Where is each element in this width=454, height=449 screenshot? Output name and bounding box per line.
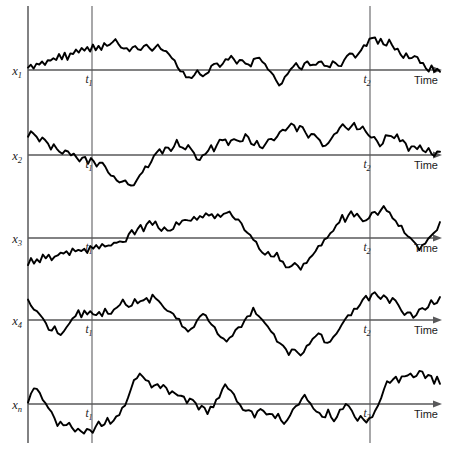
row-label-xn: xn [11,398,22,414]
row-label-x1: x1 [11,64,22,80]
ensemble-random-process-figure: x1t1t2Timex2t1t2Timex3t1t2Timex4t1t2Time… [0,0,454,449]
row-label-x4: x4 [11,314,23,330]
series-row-x1: x1t1t2Time [11,38,442,88]
time-axis-arrow-x3 [433,235,442,242]
time-axis-label-x4: Time [414,324,438,336]
series-row-x2: x2t1t2Time [11,123,442,186]
time-axis-label-x2: Time [414,159,438,171]
row-label-x2: x2 [11,149,23,165]
time-axis-arrow-xn [433,401,442,408]
time-axis-arrow-x4 [433,317,442,324]
trace-xn [28,371,440,434]
plot-canvas: x1t1t2Timex2t1t2Timex3t1t2Timex4t1t2Time… [0,0,454,449]
time-axis-label-x3: Time [414,242,438,254]
trace-x2 [28,123,440,186]
series-row-xn: xnt1t2Time [11,371,442,434]
time-axis-label-x1: Time [414,74,438,86]
series-row-x3: x3t1t2Time [11,206,442,270]
trace-x4 [28,292,440,355]
time-axis-label-xn: Time [414,408,438,420]
row-label-x3: x3 [11,232,22,248]
series-row-x4: x4t1t2Time [11,292,442,355]
